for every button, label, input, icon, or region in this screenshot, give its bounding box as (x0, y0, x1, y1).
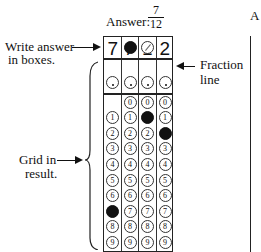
fraction-denominator: 12 (148, 18, 164, 31)
digit-bubble-7[interactable]: 7 (141, 205, 154, 218)
digit-bubble-3[interactable]: 3 (159, 142, 172, 155)
digit-bubble-2[interactable]: 2 (106, 127, 119, 140)
digit-bubble-4[interactable]: 4 (106, 158, 119, 171)
digit-bubble-6[interactable]: 6 (106, 189, 119, 202)
slash-icon (145, 44, 151, 51)
digit-bubble-4[interactable]: 4 (159, 158, 172, 171)
digit-bubble-9[interactable]: 9 (141, 236, 154, 249)
digit-bubble-4[interactable]: 4 (124, 158, 137, 171)
decimal-bubble[interactable] (124, 76, 137, 89)
decimal-bubble[interactable] (106, 76, 119, 89)
fraction-line-label: Fraction (200, 58, 243, 72)
arrow-right-icon (75, 156, 83, 164)
decimal-dot-icon (130, 84, 132, 86)
decimal-dot-icon (147, 84, 149, 86)
arrow-right-icon (93, 43, 101, 51)
answer-box-1[interactable]: 7 (104, 37, 122, 59)
answer-box-4[interactable]: 2 (156, 37, 174, 59)
digit-bubble-0[interactable]: 0 (159, 96, 172, 109)
second-answer-label: A (250, 8, 259, 24)
digit-bubble-5[interactable]: 5 (141, 174, 154, 187)
decimal-bubble[interactable] (159, 76, 172, 89)
write-answer-arrow (72, 47, 94, 48)
digit-bubble-7[interactable]: 7 (159, 205, 172, 218)
digit-bubble-2[interactable]: 2 (124, 127, 137, 140)
digit-bubble-9[interactable]: 9 (124, 236, 137, 249)
digit-bubble-1[interactable]: 1 (106, 111, 119, 124)
grid-arrow (57, 160, 75, 161)
digit-bubble-8[interactable]: 8 (141, 220, 154, 233)
digit-bubble-2[interactable]: 2 (141, 127, 154, 140)
grid-in-label-2: result. (25, 167, 57, 181)
digit-bubble-8[interactable]: 8 (124, 220, 137, 233)
digit-bubble-7[interactable]: 7 (106, 205, 119, 218)
curly-brace-icon (84, 60, 102, 250)
grid-in-label: Grid in (19, 153, 56, 167)
digit-bubble-3[interactable]: 3 (106, 142, 119, 155)
digit-bubble-4[interactable]: 4 (141, 158, 154, 171)
slash-bubble[interactable] (141, 41, 154, 54)
digit-bubble-1[interactable]: 1 (159, 111, 172, 124)
digit-bubble-3[interactable]: 3 (124, 142, 137, 155)
digit-bubble-2[interactable]: 2 (159, 127, 172, 140)
answer-grid: 7 / 1 2 00011112222333344445555666677778… (103, 36, 173, 252)
slash-bubble[interactable] (124, 41, 137, 54)
fraction-numerator: 7 (148, 4, 164, 18)
digit-bubble-5[interactable]: 5 (106, 174, 119, 187)
write-answer-label-2: in boxes. (8, 53, 55, 67)
decimal-bubble[interactable] (141, 76, 154, 89)
digit-bubble-8[interactable]: 8 (159, 220, 172, 233)
digit-bubble-0[interactable]: 0 (124, 96, 137, 109)
fraction-line-arrow (183, 66, 195, 67)
digit-bubble-3[interactable]: 3 (141, 142, 154, 155)
answer-fraction: 7 12 (148, 4, 164, 31)
digit-bubble-1[interactable]: 1 (141, 111, 154, 124)
decimal-dot-icon (112, 84, 114, 86)
answer-label: Answer: (106, 14, 150, 30)
digit-bubble-8[interactable]: 8 (106, 220, 119, 233)
digit-bubble-6[interactable]: 6 (141, 189, 154, 202)
digit-bubble-1[interactable]: 1 (124, 111, 137, 124)
second-grid (250, 36, 261, 252)
digit-bubble-6[interactable]: 6 (124, 189, 137, 202)
digit-bubble-5[interactable]: 5 (159, 174, 172, 187)
digit-bubble-7[interactable]: 7 (124, 205, 137, 218)
digit-bubble-9[interactable]: 9 (106, 236, 119, 249)
fraction-line-label-2: line (200, 73, 220, 87)
digit-bubble-9[interactable]: 9 (159, 236, 172, 249)
digit-bubble-5[interactable]: 5 (124, 174, 137, 187)
digit-bubble-6[interactable]: 6 (159, 189, 172, 202)
decimal-dot-icon (165, 84, 167, 86)
digit-bubble-0[interactable]: 0 (141, 96, 154, 109)
